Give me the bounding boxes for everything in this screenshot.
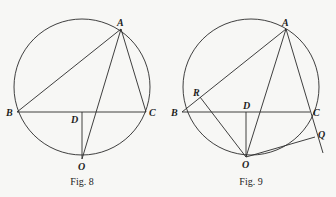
fig8-segment-AC: [121, 29, 146, 112]
fig9-label-D: D: [242, 100, 250, 111]
fig8-label-D: D: [70, 114, 78, 125]
fig8-segment-AO: [82, 29, 121, 159]
fig9-caption: Fig. 9: [239, 176, 262, 187]
fig9-segment-RO: [200, 97, 246, 157]
fig9-segment-AO: [246, 29, 286, 157]
fig8-label-A: A: [116, 17, 124, 28]
fig9-label-C: C: [313, 107, 320, 118]
fig8-segment-AB: [17, 29, 121, 112]
fig8-caption: Fig. 8: [70, 176, 93, 187]
fig9-label-O: O: [242, 159, 249, 170]
figure-9: A B C D O R Q Fig. 9: [170, 17, 325, 187]
fig8-label-C: C: [149, 107, 156, 118]
fig8-label-B: B: [5, 107, 13, 118]
figures-canvas: A B C D O Fig. 8 A B C D O R Q Fig. 9: [0, 0, 336, 197]
fig9-segment-AB: [182, 29, 286, 112]
figure-8: A B C D O Fig. 8: [5, 17, 156, 187]
fig9-label-A: A: [281, 17, 289, 28]
fig9-segment-OQ: [246, 137, 315, 157]
fig8-label-O: O: [78, 161, 85, 172]
fig9-label-Q: Q: [318, 129, 325, 140]
fig9-label-R: R: [192, 87, 200, 98]
fig9-label-B: B: [170, 107, 178, 118]
fig9-circumcircle: [183, 19, 319, 155]
